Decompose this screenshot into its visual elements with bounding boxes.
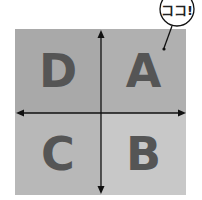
axes-overlay — [0, 0, 202, 200]
vertical-axis-arrow — [98, 30, 105, 194]
pointer-dot-icon — [162, 47, 165, 50]
callout-text: ココ! — [157, 0, 197, 22]
